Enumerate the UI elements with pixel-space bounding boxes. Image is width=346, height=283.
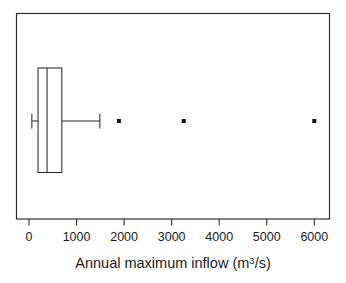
- x-tick-label-5000: 5000: [253, 230, 281, 244]
- x-tick-label-4000: 4000: [205, 230, 233, 244]
- x-tick-label-6000: 6000: [300, 230, 328, 244]
- x-tick-label-0: 0: [26, 230, 33, 244]
- outlier-point-6000: [312, 119, 316, 123]
- boxplot-figure: 0100020003000400050006000 Annual maximum…: [0, 0, 346, 283]
- x-axis-title: Annual maximum inflow (m3/s): [75, 255, 270, 272]
- x-tick-label-1000: 1000: [63, 230, 91, 244]
- box-iqr: [38, 68, 62, 173]
- outlier-point-1890: [117, 119, 121, 123]
- outlier-point-3255: [182, 119, 186, 123]
- boxplot-canvas: 0100020003000400050006000 Annual maximum…: [0, 0, 346, 283]
- x-tick-label-3000: 3000: [158, 230, 186, 244]
- x-tick-label-2000: 2000: [110, 230, 138, 244]
